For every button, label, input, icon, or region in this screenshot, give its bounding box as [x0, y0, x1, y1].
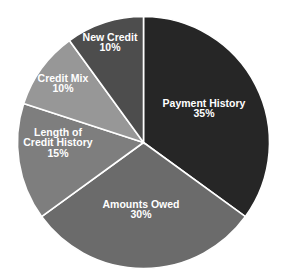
pie-chart: Payment History35%Amounts Owed30%Length …: [0, 0, 283, 278]
